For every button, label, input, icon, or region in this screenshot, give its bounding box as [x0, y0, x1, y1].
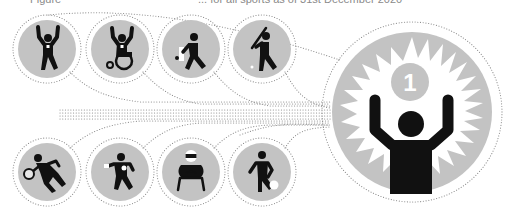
rank-medal: 1 [391, 63, 429, 101]
sport-node-table-tennis [86, 138, 154, 206]
sports-network-diagram: .ring { fill: none; stroke: #8c8c8c; str… [0, 0, 512, 215]
sport-node-baseball [228, 15, 296, 83]
sport-node-football [228, 138, 296, 206]
sport-node-para-sport [86, 15, 154, 83]
sport-node-motorsport [157, 138, 225, 206]
sport-node-cricket [157, 15, 225, 83]
winner-node: 1 [322, 22, 502, 202]
sport-node-tennis [13, 138, 81, 206]
rank-number: 1 [403, 69, 416, 96]
sport-node-athletics [13, 15, 81, 83]
